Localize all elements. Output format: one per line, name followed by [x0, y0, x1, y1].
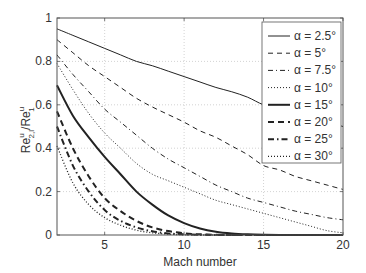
legend-label: α = 30° [294, 149, 333, 163]
legend-label: α = 25° [294, 132, 333, 146]
y-tick-label: 0.8 [35, 54, 52, 68]
legend-label: α = 20° [294, 115, 333, 129]
legend-label: α = 2.5° [294, 29, 336, 43]
y-tick-label: 0.2 [35, 185, 52, 199]
legend: α = 2.5°α = 5°α = 7.5°α = 10°α = 15°α = … [262, 22, 341, 163]
x-tick-label: 10 [177, 238, 191, 252]
legend-label: α = 7.5° [294, 63, 336, 77]
svg-text:Reu2,l/Reu1: Reu2,l/Reu1 [17, 107, 36, 153]
legend-label: α = 10° [294, 81, 333, 95]
x-axis-label: Mach number [163, 255, 236, 269]
y-tick-label: 0 [45, 228, 52, 242]
x-tick-label: 20 [336, 238, 350, 252]
legend-label: α = 5° [294, 46, 326, 60]
y-tick-label: 1 [45, 11, 52, 25]
x-tick-label: 15 [257, 238, 271, 252]
chart-figure: 510152000.20.40.60.81 Mach number Reu2,l… [0, 0, 366, 273]
y-tick-label: 0.4 [35, 141, 52, 155]
line-chart: 510152000.20.40.60.81 Mach number Reu2,l… [0, 0, 366, 273]
y-tick-label: 0.6 [35, 98, 52, 112]
legend-label: α = 15° [294, 98, 333, 112]
y-axis-label: Reu2,l/Reu1 [17, 107, 36, 153]
x-tick-label: 5 [101, 238, 108, 252]
